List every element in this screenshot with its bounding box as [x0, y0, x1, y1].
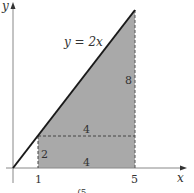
label-upper-width: 4 — [83, 123, 90, 136]
label-rect-width: 4 — [83, 156, 90, 169]
y-axis-label: y — [1, 0, 9, 13]
diagram-canvas: y x 1 5 y = 2x 8 4 2 4 ∫5 — [0, 0, 194, 193]
x-axis-arrow-icon — [180, 166, 187, 171]
label-right-height: 8 — [125, 74, 132, 87]
bottom-fragment: ∫5 — [76, 188, 87, 193]
shaded-region — [38, 10, 135, 168]
curve-label: y = 2x — [63, 35, 103, 49]
x-axis-label: x — [177, 171, 184, 185]
label-rect-height: 2 — [41, 148, 48, 161]
x-tick-1: 1 — [35, 173, 42, 186]
x-tick-5: 5 — [131, 173, 138, 186]
y-axis-arrow-icon — [11, 2, 16, 9]
